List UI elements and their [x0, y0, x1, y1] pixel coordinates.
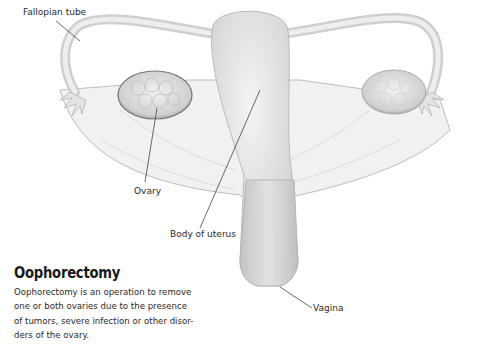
label-fallopian-tube: Fallopian tube	[23, 7, 86, 17]
caption-line: one or both ovaries due to the presence	[14, 299, 214, 313]
label-vagina: Vagina	[313, 303, 343, 313]
caption-description: Oophorectomy is an operation to remove o…	[14, 285, 214, 343]
label-ovary: Ovary	[134, 186, 161, 196]
label-body-of-uterus: Body of uterus	[170, 229, 236, 239]
caption-line: of tumors, severe infection or other dis…	[14, 314, 214, 328]
caption-line: Oophorectomy is an operation to remove	[14, 285, 214, 299]
caption-title: Oophorectomy	[14, 264, 120, 282]
caption-line: ders of the ovary.	[14, 328, 214, 342]
